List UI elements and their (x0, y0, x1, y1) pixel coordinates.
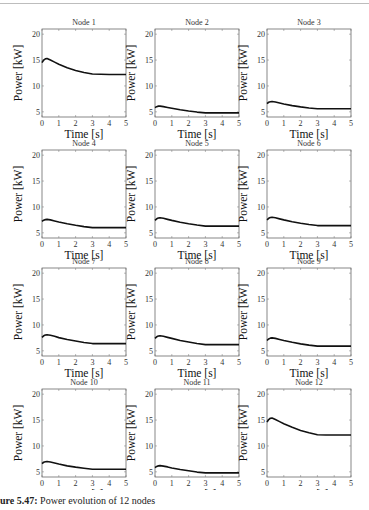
figure-caption: ure 5.47: Power evolution of 12 nodes (0, 495, 155, 506)
x-tick-label: 2 (299, 479, 303, 488)
x-tick-label: 5 (124, 358, 128, 367)
x-tick-label: 0 (153, 479, 157, 488)
y-tick-label: 15 (32, 295, 40, 304)
y-axis-label: Power [kW] (125, 45, 137, 102)
x-tick-label: 4 (107, 479, 111, 488)
y-tick-label: 10 (257, 203, 265, 212)
y-tick-label: 20 (257, 390, 265, 399)
y-tick-label: 5 (36, 468, 40, 477)
y-tick-label: 5 (149, 229, 153, 238)
x-tick-label: 5 (349, 479, 353, 488)
x-tick-label: 2 (74, 479, 78, 488)
y-tick-label: 20 (145, 151, 153, 160)
axes-box (155, 29, 239, 117)
y-axis-label: Power [kW] (125, 166, 137, 223)
y-axis-label: Power [kW] (125, 284, 137, 341)
y-tick-label: 15 (257, 177, 265, 186)
x-tick-label: 1 (170, 240, 174, 249)
y-tick-label: 10 (32, 442, 40, 451)
x-tick-label: 3 (315, 358, 319, 367)
subplot-node-2: Node 20123455101520Time [s]Power [kW] (125, 18, 241, 140)
y-tick-label: 15 (32, 416, 40, 425)
subplot-title: Node 1 (72, 18, 95, 27)
y-axis-label: Power [kW] (12, 166, 24, 223)
x-axis-label: Time [s] (290, 488, 329, 490)
y-tick-label: 5 (261, 229, 265, 238)
x-tick-label: 4 (220, 358, 224, 367)
x-tick-label: 5 (237, 240, 241, 249)
y-tick-label: 15 (32, 56, 40, 65)
x-tick-label: 4 (220, 240, 224, 249)
subplot-node-3: Node 30123455101520Time [s]Power [kW] (237, 18, 353, 140)
subplot-title: Node 2 (185, 18, 208, 27)
x-tick-label: 2 (299, 119, 303, 128)
y-tick-label: 10 (257, 321, 265, 330)
y-tick-label: 20 (32, 269, 40, 278)
x-tick-label: 3 (203, 119, 207, 128)
x-tick-label: 3 (315, 119, 319, 128)
y-tick-label: 10 (32, 321, 40, 330)
subplot-title: Node 12 (295, 378, 322, 387)
subplot-title: Node 3 (297, 18, 320, 27)
x-tick-label: 2 (187, 358, 191, 367)
x-tick-label: 1 (282, 240, 286, 249)
y-axis-label: Power [kW] (12, 284, 24, 341)
x-tick-label: 5 (237, 119, 241, 128)
x-tick-label: 0 (265, 119, 269, 128)
y-tick-label: 5 (149, 468, 153, 477)
y-tick-label: 15 (145, 295, 153, 304)
y-tick-label: 10 (32, 82, 40, 91)
x-tick-label: 1 (282, 479, 286, 488)
y-tick-label: 10 (257, 82, 265, 91)
x-tick-label: 1 (282, 119, 286, 128)
x-tick-label: 3 (203, 240, 207, 249)
x-tick-label: 2 (74, 358, 78, 367)
x-tick-label: 2 (187, 240, 191, 249)
y-tick-label: 20 (257, 151, 265, 160)
subplot-title: Node 9 (297, 257, 320, 266)
x-tick-label: 0 (265, 240, 269, 249)
y-tick-label: 20 (257, 30, 265, 39)
x-tick-label: 1 (282, 358, 286, 367)
x-tick-label: 5 (124, 479, 128, 488)
subplot-node-11: Node 110123455101520Time [s]Power [kW] (125, 378, 241, 490)
subplot-node-1: Node 10123455101520Time [s]Power [kW] (12, 18, 128, 140)
subplot-title: Node 7 (72, 257, 95, 266)
x-tick-label: 4 (107, 240, 111, 249)
y-tick-label: 10 (145, 203, 153, 212)
x-tick-label: 2 (187, 119, 191, 128)
axes-box (267, 268, 351, 356)
y-tick-label: 15 (257, 295, 265, 304)
x-tick-label: 4 (220, 119, 224, 128)
x-tick-label: 5 (237, 479, 241, 488)
y-tick-label: 5 (261, 468, 265, 477)
subplot-title: Node 4 (72, 139, 95, 148)
subplot-node-6: Node 60123455101520Time [s]Power [kW] (237, 139, 353, 261)
y-tick-label: 5 (149, 347, 153, 356)
y-tick-label: 10 (145, 82, 153, 91)
x-tick-label: 2 (299, 240, 303, 249)
y-tick-label: 15 (145, 177, 153, 186)
x-tick-label: 1 (170, 119, 174, 128)
subplot-grid: Node 10123455101520Time [s]Power [kW]Nod… (0, 0, 369, 490)
axes-box (155, 389, 239, 477)
y-tick-label: 5 (149, 108, 153, 117)
subplot-title: Node 8 (185, 257, 208, 266)
subplot-node-9: Node 90123455101520Time [s]Power [kW] (237, 257, 353, 379)
x-tick-label: 1 (57, 479, 61, 488)
y-tick-label: 15 (32, 177, 40, 186)
y-tick-label: 20 (257, 269, 265, 278)
y-tick-label: 10 (145, 321, 153, 330)
x-tick-label: 2 (299, 358, 303, 367)
y-tick-label: 5 (36, 347, 40, 356)
x-tick-label: 0 (40, 479, 44, 488)
x-tick-label: 1 (57, 119, 61, 128)
x-tick-label: 5 (349, 119, 353, 128)
x-tick-label: 4 (107, 119, 111, 128)
x-tick-label: 2 (187, 479, 191, 488)
y-tick-label: 20 (145, 390, 153, 399)
x-tick-label: 5 (349, 358, 353, 367)
x-tick-label: 2 (74, 240, 78, 249)
y-tick-label: 15 (145, 416, 153, 425)
x-tick-label: 0 (265, 358, 269, 367)
